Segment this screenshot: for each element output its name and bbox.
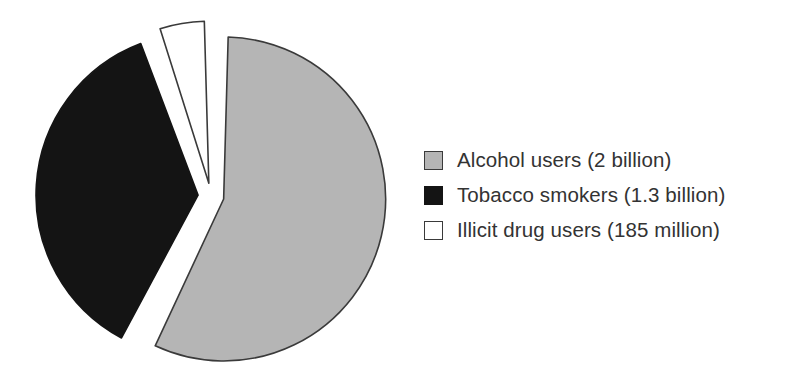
pie-chart-figure: Alcohol users (2 billion) Tobacco smoker… [0, 0, 789, 374]
legend-label-alcohol: Alcohol users (2 billion) [457, 150, 671, 171]
chart-legend: Alcohol users (2 billion) Tobacco smoker… [424, 143, 774, 248]
pie-chart-svg [0, 0, 410, 374]
legend-label-illicit: Illicit drug users (185 million) [457, 220, 720, 241]
legend-swatch-tobacco [424, 186, 443, 205]
pie-chart-plot-area [0, 0, 410, 374]
legend-item-alcohol[interactable]: Alcohol users (2 billion) [424, 143, 774, 178]
legend-swatch-alcohol [424, 151, 443, 170]
legend-item-illicit[interactable]: Illicit drug users (185 million) [424, 213, 774, 248]
pie-slice-tobacco[interactable] [36, 44, 198, 338]
legend-label-tobacco: Tobacco smokers (1.3 billion) [457, 185, 725, 206]
legend-swatch-illicit [424, 221, 443, 240]
legend-item-tobacco[interactable]: Tobacco smokers (1.3 billion) [424, 178, 774, 213]
